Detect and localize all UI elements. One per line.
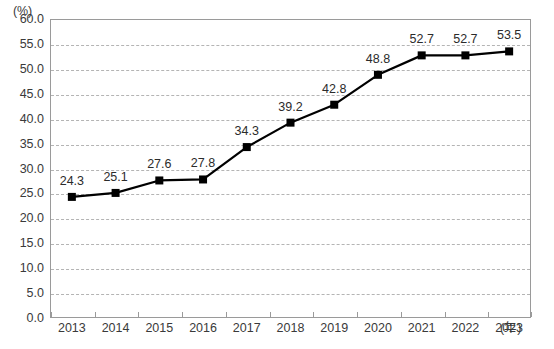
data-point-label: 27.6 xyxy=(147,158,171,171)
data-point-marker[interactable] xyxy=(243,143,251,151)
data-point-label: 27.8 xyxy=(191,157,215,170)
x-axis-tick-label: 2013 xyxy=(58,322,86,335)
y-axis-tick-label: 30.0 xyxy=(0,162,44,175)
x-axis-tick-label: 2015 xyxy=(145,322,173,335)
y-axis-tick-label: 10.0 xyxy=(0,262,44,275)
data-point-label: 52.7 xyxy=(410,33,434,46)
data-point-label: 48.8 xyxy=(366,52,390,65)
x-axis-tick xyxy=(531,312,532,317)
x-axis-tick-label: 2017 xyxy=(233,322,261,335)
y-axis-tick-label: 35.0 xyxy=(0,137,44,150)
data-point-marker[interactable] xyxy=(112,189,120,197)
data-point-label: 53.5 xyxy=(497,29,521,42)
data-point-marker[interactable] xyxy=(199,175,207,183)
y-axis-tick-label: 5.0 xyxy=(0,287,44,300)
y-axis-tick-labels: 60.055.050.045.040.035.030.025.020.015.0… xyxy=(0,19,44,318)
data-point-label: 25.1 xyxy=(103,170,127,183)
data-point-label: 39.2 xyxy=(278,100,302,113)
x-axis-tick-label: 2016 xyxy=(189,322,217,335)
x-axis-tick-label: 2020 xyxy=(364,322,392,335)
y-axis-tick-label: 45.0 xyxy=(0,88,44,101)
data-point-marker[interactable] xyxy=(155,176,163,184)
x-axis-tick-label: 2022 xyxy=(452,322,480,335)
data-point-label: 24.3 xyxy=(60,174,84,187)
x-axis-tick-label: 2019 xyxy=(320,322,348,335)
x-axis-title: (年) xyxy=(500,322,521,335)
y-axis-tick-label: 60.0 xyxy=(0,13,44,26)
x-axis-tick-labels: 2013201420152016201720182019202020212022… xyxy=(50,322,531,342)
data-point-marker[interactable] xyxy=(418,51,426,59)
y-axis-tick-label: 0.0 xyxy=(0,312,44,325)
y-axis-tick-label: 15.0 xyxy=(0,237,44,250)
y-axis-tick-label: 20.0 xyxy=(0,212,44,225)
data-point-label: 42.8 xyxy=(322,82,346,95)
y-axis-tick-label: 40.0 xyxy=(0,112,44,125)
y-axis-tick-label: 50.0 xyxy=(0,63,44,76)
data-point-marker[interactable] xyxy=(287,119,295,127)
data-point-marker[interactable] xyxy=(330,101,338,109)
y-axis-tick-label: 55.0 xyxy=(0,38,44,51)
data-point-marker[interactable] xyxy=(461,51,469,59)
x-axis-tick-label: 2021 xyxy=(408,322,436,335)
x-axis-tick-label: 2014 xyxy=(102,322,130,335)
data-point-label: 52.7 xyxy=(453,33,477,46)
chart-container: (%) 60.055.050.045.040.035.030.025.020.0… xyxy=(0,0,554,349)
data-point-label: 34.3 xyxy=(235,125,259,138)
y-axis-tick-label: 25.0 xyxy=(0,187,44,200)
x-axis-tick-label: 2018 xyxy=(277,322,305,335)
data-point-marker[interactable] xyxy=(68,193,76,201)
data-point-marker[interactable] xyxy=(374,71,382,79)
data-point-marker[interactable] xyxy=(505,47,513,55)
